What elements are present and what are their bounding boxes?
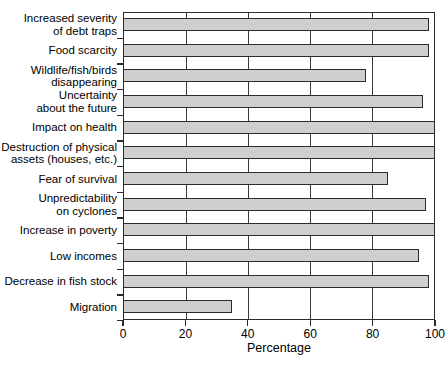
y-axis-tick: [117, 38, 123, 39]
bar-row: [123, 89, 435, 115]
bar: [123, 223, 435, 236]
y-axis-tick: [117, 115, 123, 116]
bar-chart: Increased severity of debt trapsFood sca…: [0, 0, 448, 365]
bar: [123, 18, 429, 31]
bar-row: [123, 294, 435, 320]
bars-layer: [123, 12, 435, 320]
x-axis-tick: [372, 320, 373, 326]
y-axis-tick: [117, 269, 123, 270]
y-axis-tick: [117, 217, 123, 218]
x-axis-tick-label: 60: [304, 327, 317, 341]
y-axis-label: Low incomes: [0, 250, 117, 263]
bar-row: [123, 217, 435, 243]
bar: [123, 95, 423, 108]
x-axis-tick-label: 100: [425, 327, 445, 341]
y-axis-label: Decrease in fish stock: [0, 275, 117, 288]
y-axis-labels: Increased severity of debt trapsFood sca…: [0, 12, 117, 320]
y-axis-label: Destruction of physical assets (houses, …: [0, 141, 117, 166]
bar: [123, 198, 426, 211]
y-axis-label: Increased severity of debt traps: [0, 12, 117, 37]
x-axis-tick: [185, 320, 186, 326]
y-axis-tick: [117, 166, 123, 167]
bar-row: [123, 12, 435, 38]
y-axis-tick: [117, 294, 123, 295]
bar-row: [123, 38, 435, 64]
x-axis-title: Percentage: [123, 341, 435, 355]
bar: [123, 275, 429, 288]
y-axis-label: Food scarcity: [0, 44, 117, 57]
bar-row: [123, 115, 435, 141]
x-axis-tick: [247, 320, 248, 326]
y-axis-tick: [117, 243, 123, 244]
y-axis-label: Wildlife/fish/birds disappearing: [0, 64, 117, 89]
x-axis-tick-label: 20: [179, 327, 192, 341]
bar-row: [123, 166, 435, 192]
bar-row: [123, 63, 435, 89]
y-axis-tick: [117, 140, 123, 141]
y-axis-tick: [117, 89, 123, 90]
y-axis-tick: [117, 63, 123, 64]
bar: [123, 300, 232, 313]
x-axis-tick-label: 0: [120, 327, 127, 341]
y-axis-label: Uncertainty about the future: [0, 89, 117, 114]
y-axis-tick: [117, 192, 123, 193]
x-axis-tick: [122, 320, 123, 326]
y-axis-label: Fear of survival: [0, 173, 117, 186]
bar: [123, 121, 435, 134]
y-axis-label: Unpredictability on cyclones: [0, 192, 117, 217]
bar: [123, 249, 419, 262]
bar-row: [123, 140, 435, 166]
x-axis-tick-label: 40: [241, 327, 254, 341]
y-axis-label: Increase in poverty: [0, 224, 117, 237]
bar-row: [123, 269, 435, 295]
bar-row: [123, 243, 435, 269]
bar: [123, 146, 435, 159]
x-axis-tick: [434, 320, 435, 326]
x-axis-tick: [310, 320, 311, 326]
bar-row: [123, 192, 435, 218]
bar: [123, 69, 366, 82]
x-axis-tick-label: 80: [366, 327, 379, 341]
bar: [123, 44, 429, 57]
bar: [123, 172, 388, 185]
y-axis-label: Migration: [0, 301, 117, 314]
y-axis-label: Impact on health: [0, 121, 117, 134]
